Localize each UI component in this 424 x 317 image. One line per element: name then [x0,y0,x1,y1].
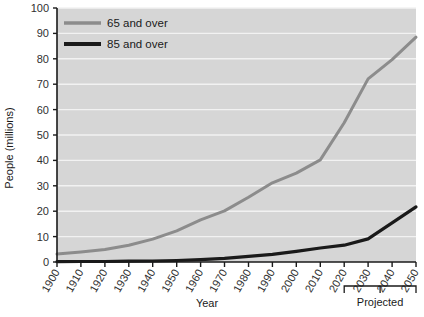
x-tick-label: 1920 [87,267,110,294]
x-tick-label: 1930 [111,267,134,294]
legend-label-2: 85 and over [107,38,168,50]
line-chart: 0102030405060708090100 19001910192019301… [0,0,424,317]
x-tick-label: 2050 [398,267,421,294]
y-tick-label: 10 [37,231,49,243]
chart-container: 0102030405060708090100 19001910192019301… [0,0,424,317]
x-axis-title: Year [196,297,219,309]
x-tick-label: 1900 [39,267,62,294]
y-tick-label: 90 [37,27,49,39]
x-tick-label: 1940 [135,267,158,294]
y-axis-title: People (millions) [3,107,15,188]
y-tick-label: 0 [43,256,49,268]
y-tick-label: 20 [37,205,49,217]
y-tick-label: 60 [37,104,49,116]
x-tick-label: 2010 [302,267,325,294]
x-tick-label: 2000 [278,267,301,294]
y-tick-label: 80 [37,53,49,65]
x-tick-label: 1970 [207,267,230,294]
x-axis-ticks: 1900191019201930194019501960197019801990… [39,262,421,294]
x-tick-label: 1960 [183,267,206,294]
projected-label: Projected [357,296,403,308]
y-tick-label: 50 [37,129,49,141]
x-tick-label: 1950 [159,267,182,294]
y-tick-label: 100 [31,2,49,14]
legend-label-1: 65 and over [107,17,168,29]
y-tick-label: 30 [37,180,49,192]
y-axis-ticks: 0102030405060708090100 [31,2,57,268]
x-tick-label: 1980 [231,267,254,294]
x-tick-label: 2020 [326,267,349,294]
y-tick-label: 70 [37,78,49,90]
x-tick-label: 2040 [374,267,397,294]
x-tick-label: 1990 [254,267,277,294]
x-tick-label: 1910 [63,267,86,294]
x-tick-label: 2030 [350,267,373,294]
y-tick-label: 40 [37,154,49,166]
